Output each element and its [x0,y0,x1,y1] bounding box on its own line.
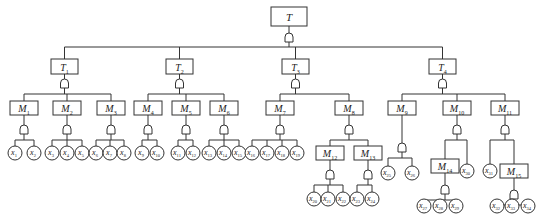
basic-event-x8: x8 [117,146,131,160]
event-box-m2: M2 [53,101,81,116]
events: TT1T2T3T4M1M2M3M4M5M6M7M8M9M10M11M12M13M… [8,7,535,213]
event-box-m9: M9 [388,101,416,116]
event-box-t4: T4 [429,59,456,75]
basic-event-x15: x15 [232,146,246,160]
and-gate-icon [61,79,69,88]
basic-event-x24: x24 [365,192,379,206]
event-box-m11: M11 [491,101,519,116]
and-gate-icon [182,125,190,134]
and-gate-icon [326,170,334,179]
and-gate-icon [510,190,518,199]
and-gate-icon [63,125,71,134]
event-box-m13: M13 [354,146,382,161]
basic-event-x20: x20 [307,192,321,206]
basic-event-x19: x19 [290,146,304,160]
and-gate-icon [364,170,372,179]
basic-event-x6: x6 [89,146,103,160]
and-gate-icon [292,79,300,88]
basic-event-x16: x16 [245,146,259,160]
basic-event-x4: x4 [60,146,74,160]
event-box-m4: M4 [134,101,162,116]
event-box-m1: M1 [10,101,38,116]
and-gate-icon [176,79,184,88]
basic-event-x10: x10 [150,146,164,160]
event-box-m14: M14 [431,159,459,174]
and-gate-icon [441,185,449,194]
and-gate-icon [220,125,228,134]
basic-event-x3: x3 [45,146,59,160]
basic-event-x11: x11 [171,146,185,160]
and-gate-icon [345,125,353,134]
event-box-m6: M6 [210,101,238,116]
basic-event-x21: x21 [321,192,335,206]
event-box-m8: M8 [335,101,363,116]
basic-event-x14: x14 [217,146,231,160]
gates [20,33,518,199]
event-box-m3: M3 [97,101,125,116]
basic-event-x12: x12 [186,146,200,160]
and-gate-icon [144,125,152,134]
and-gate-icon [107,125,115,134]
basic-event-x7: x7 [103,146,117,160]
basic-event-x9: x9 [135,146,149,160]
event-box-t2: T2 [166,59,193,75]
basic-event-x27: x27 [417,199,431,213]
event-box-t1: T1 [51,59,78,75]
basic-event-x28: x28 [433,199,447,213]
basic-event-x17: x17 [260,146,274,160]
basic-event-x25: x25 [381,166,395,180]
fault-tree-svg: TT1T2T3T4M1M2M3M4M5M6M7M8M9M10M11M12M13M… [0,0,543,222]
and-gate-icon [276,125,284,134]
and-gate-icon [439,79,447,88]
event-box-m15: M15 [500,164,528,179]
basic-event-x33: x33 [505,199,519,213]
event-box-m12: M12 [316,146,344,161]
fault-tree-diagram: TT1T2T3T4M1M2M3M4M5M6M7M8M9M10M11M12M13M… [0,0,543,222]
basic-event-x22: x22 [336,192,350,206]
basic-event-x1: x1 [8,146,22,160]
event-box-m5: M5 [172,101,200,116]
and-gate-icon [20,125,28,134]
basic-event-x2: x2 [27,146,41,160]
event-box-m7: M7 [266,101,294,116]
basic-event-x13: x13 [202,146,216,160]
basic-event-x32: x32 [490,199,504,213]
and-gate-icon [453,125,461,134]
basic-event-x18: x18 [275,146,289,160]
event-box-m10: M10 [443,101,471,116]
event-label: T [286,11,293,23]
basic-event-x30: x30 [460,164,474,178]
event-box-t3: T3 [282,59,309,75]
basic-event-x5: x5 [75,146,89,160]
basic-event-x31: x31 [483,164,497,178]
and-gate-icon [398,143,406,152]
and-gate-icon [501,125,509,134]
event-box-t: T [271,7,307,26]
and-gate-icon [285,33,293,42]
basic-event-x23: x23 [350,192,364,206]
basic-event-x26: x26 [405,166,419,180]
basic-event-x34: x34 [521,199,535,213]
basic-event-x29: x29 [449,199,463,213]
